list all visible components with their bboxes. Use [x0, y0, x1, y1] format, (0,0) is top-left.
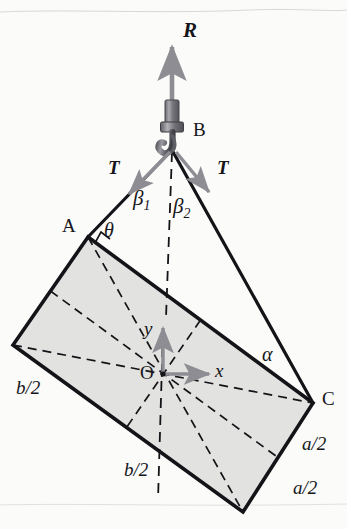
beta2-label: β2 [173, 196, 190, 221]
beta2-subscript: 2 [183, 206, 190, 221]
beta2-symbol: β [173, 194, 183, 218]
origin-marker [160, 371, 165, 376]
corner-a-label: A [62, 216, 76, 235]
alpha-label: α [262, 344, 273, 364]
origin-label: O [140, 363, 154, 382]
a-half-lower-label: a/2 [293, 478, 317, 497]
resultant-label: R [183, 20, 197, 41]
tension-left-label: T [108, 158, 120, 177]
mechanics-figure: R B T T β1 β2 A θ α C O x y b/2 b/2 a/2 … [0, 0, 347, 529]
beta1-subscript: 1 [143, 198, 150, 213]
b-half-bottom-label: b/2 [124, 460, 148, 479]
scan-artifact-line-bottom [0, 504, 347, 505]
hook-curve [158, 132, 172, 153]
beta1-symbol: β [133, 186, 143, 210]
beta1-label: β1 [133, 188, 150, 213]
corner-c-label: C [322, 389, 335, 408]
hook-point-label: B [193, 120, 206, 139]
y-axis-label: y [144, 319, 152, 338]
a-half-upper-label: a/2 [302, 434, 326, 453]
scan-artifact-line [0, 9, 347, 12]
figure-canvas [0, 0, 347, 529]
x-axis-label: x [215, 361, 223, 380]
tension-right-label: T [217, 158, 229, 177]
theta-label: θ [104, 220, 114, 240]
vertical-centerline-upper [166, 152, 172, 318]
b-half-left-label: b/2 [16, 378, 40, 397]
